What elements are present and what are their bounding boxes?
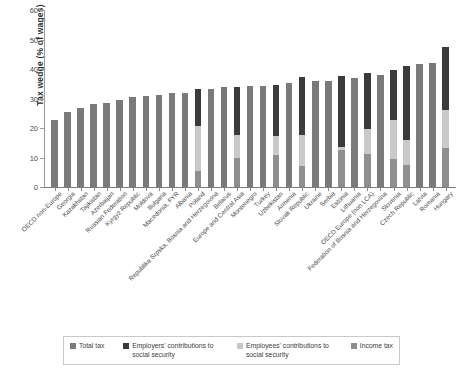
legend-label: Employers' contributions to social secur… (132, 342, 218, 359)
bar[interactable] (221, 87, 228, 187)
bar-segment-employers (364, 73, 371, 128)
bar-segment-total-tax (429, 63, 436, 187)
bar-segment-employers (390, 70, 397, 120)
bar-segment-total-tax (312, 81, 319, 187)
bar[interactable] (416, 64, 423, 187)
bar-segment-total-tax (129, 97, 136, 187)
legend-item-employee[interactable]: Employees' contributions to social secur… (237, 342, 332, 359)
bar[interactable] (129, 97, 136, 187)
bar[interactable] (273, 85, 280, 187)
bar[interactable] (286, 83, 293, 187)
bar-segment-total-tax (260, 86, 267, 187)
bar-segment-income-tax (390, 159, 397, 187)
y-tick-label: 10 (30, 153, 38, 162)
bar-segment-employees (273, 136, 280, 154)
bars-group (44, 10, 456, 188)
bar[interactable] (390, 70, 397, 187)
bar[interactable] (143, 96, 150, 187)
bar[interactable] (234, 87, 241, 187)
bar[interactable] (116, 100, 123, 187)
bar-segment-total-tax (351, 78, 358, 187)
bar[interactable] (325, 81, 332, 188)
bar-segment-income-tax (364, 154, 371, 187)
bar-segment-total-tax (182, 93, 189, 187)
bar-segment-total-tax (169, 93, 176, 187)
bar-segment-employees (403, 140, 410, 165)
bar[interactable] (364, 73, 371, 187)
bar-segment-total-tax (208, 89, 215, 187)
bar-segment-total-tax (51, 120, 58, 187)
bar[interactable] (77, 108, 84, 187)
tax-wedge-bar-chart: Tax wedge (% of wages) 0102030405060 OEC… (0, 0, 462, 378)
bar[interactable] (208, 89, 215, 187)
x-axis-labels: OECD non-EuropeGeorgiaKazakhstanTajikist… (44, 190, 456, 320)
bar-segment-employers (338, 76, 345, 147)
bar[interactable] (260, 86, 267, 187)
bar-segment-employers (299, 77, 306, 136)
plot-area: 0102030405060 (44, 10, 456, 188)
x-axis-label: OECD non-Europe (19, 190, 62, 233)
bar-segment-income-tax (403, 165, 410, 187)
bar-segment-total-tax (156, 95, 163, 187)
legend-label: Employees' contributions to social secur… (246, 342, 332, 359)
bar-segment-total-tax (286, 83, 293, 187)
chart-legend: Total taxEmployers' contributions to soc… (63, 336, 400, 365)
y-tick-label: 50 (30, 35, 38, 44)
bar[interactable] (312, 81, 319, 187)
bar-segment-income-tax (442, 148, 449, 187)
legend-swatch-icon (237, 343, 243, 349)
bar[interactable] (338, 76, 345, 187)
bar[interactable] (442, 47, 449, 187)
bar[interactable] (377, 75, 384, 187)
bar[interactable] (64, 112, 71, 187)
bar-segment-total-tax (143, 96, 150, 187)
bar-segment-total-tax (116, 100, 123, 187)
bar-segment-total-tax (325, 81, 332, 188)
bar[interactable] (195, 89, 202, 187)
bar-segment-income-tax (195, 171, 202, 187)
bar-segment-income-tax (299, 166, 306, 187)
y-tick-label: 0 (34, 183, 38, 192)
bar-segment-employees (390, 120, 397, 159)
y-tick-label: 40 (30, 65, 38, 74)
legend-swatch-icon (351, 343, 357, 349)
legend-label: Income tax (360, 342, 393, 351)
bar-segment-total-tax (103, 103, 110, 187)
bar[interactable] (169, 93, 176, 187)
bar-segment-total-tax (377, 75, 384, 187)
bar[interactable] (103, 103, 110, 187)
y-tick-label: 60 (30, 6, 38, 15)
bar-segment-employees (299, 135, 306, 166)
bar-segment-total-tax (77, 108, 84, 187)
bar-segment-income-tax (234, 158, 241, 187)
bar-segment-total-tax (416, 64, 423, 187)
legend-swatch-icon (70, 343, 76, 349)
bar[interactable] (299, 77, 306, 187)
bar-segment-employers (403, 66, 410, 140)
bar[interactable] (247, 86, 254, 187)
bar-segment-employers (273, 85, 280, 137)
legend-item-income[interactable]: Income tax (351, 342, 393, 351)
bar-segment-income-tax (273, 155, 280, 187)
bar[interactable] (182, 93, 189, 187)
y-tick-label: 20 (30, 124, 38, 133)
bar[interactable] (51, 120, 58, 187)
bar-segment-total-tax (64, 112, 71, 187)
bar-segment-total-tax (90, 104, 97, 187)
bar-segment-income-tax (338, 150, 345, 187)
bar-segment-employers (442, 47, 449, 110)
bar[interactable] (403, 66, 410, 187)
bar-segment-total-tax (247, 86, 254, 187)
bar[interactable] (156, 95, 163, 187)
bar-segment-employees (234, 135, 241, 159)
legend-swatch-icon (123, 343, 129, 349)
bar[interactable] (90, 104, 97, 187)
bar-segment-total-tax (221, 87, 228, 187)
bar[interactable] (429, 63, 436, 187)
bar[interactable] (351, 78, 358, 187)
legend-item-employer[interactable]: Employers' contributions to social secur… (123, 342, 218, 359)
legend-item-total[interactable]: Total tax (70, 342, 104, 351)
bar-segment-employers (234, 87, 241, 135)
bar-segment-employees (364, 129, 371, 154)
legend-label: Total tax (79, 342, 104, 351)
